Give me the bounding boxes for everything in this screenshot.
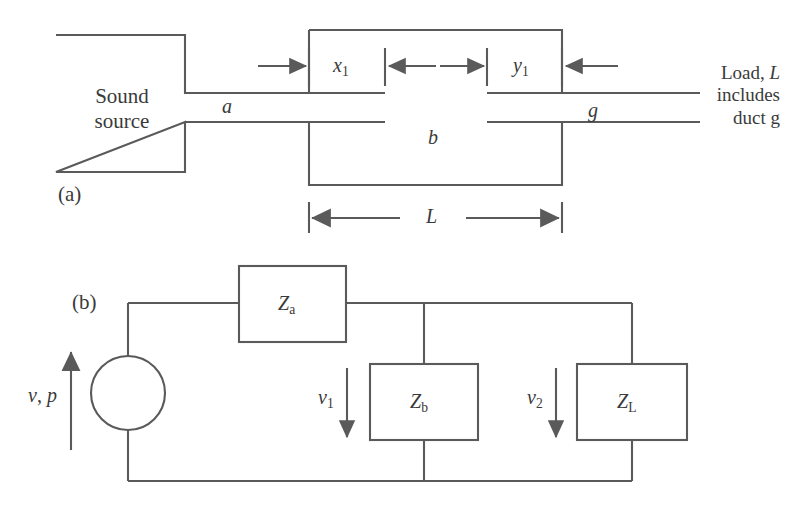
zl-base: Z — [617, 390, 628, 412]
load-note-line2: includes — [600, 84, 780, 106]
sound-source-line1: Sound — [74, 84, 170, 109]
v1-sub: 1 — [327, 396, 334, 411]
load-note-line1: Load, L — [600, 62, 780, 84]
dim-x1-base: x — [333, 54, 342, 76]
zb-base: Z — [410, 390, 421, 412]
v1-label: v1 — [318, 386, 334, 410]
sound-source-label: Sound source — [74, 84, 170, 134]
za-base: Z — [278, 292, 289, 314]
dim-y1-sub: 1 — [522, 64, 529, 79]
panel-label-b: (b) — [72, 290, 97, 315]
dim-y1-label: y1 — [513, 54, 529, 78]
source-symbol — [91, 356, 165, 430]
vp-label-comma: , — [37, 384, 47, 406]
v2-sub: 2 — [536, 396, 543, 411]
zb-label: Zb — [410, 390, 428, 414]
duct-g-label: g — [588, 99, 598, 123]
dim-y1-base: y — [513, 54, 522, 76]
za-sub: a — [289, 302, 295, 317]
v1-base: v — [318, 386, 327, 408]
za-label: Za — [278, 292, 295, 316]
sound-source-line2: source — [74, 109, 170, 134]
load-note-symbol: L — [769, 62, 780, 83]
vp-label: v, p — [28, 384, 57, 408]
figure-canvas: Sound source a g b x1 y1 L Load, L inclu… — [0, 0, 786, 508]
dim-length-label: L — [426, 205, 437, 229]
vp-label-p: p — [47, 384, 57, 406]
vp-label-v: v — [28, 384, 37, 406]
v2-label: v2 — [527, 386, 543, 410]
load-note-prefix: Load, — [721, 62, 770, 83]
dim-x1-label: x1 — [333, 54, 349, 78]
chamber-b-label: b — [428, 126, 438, 150]
zl-label: ZL — [617, 390, 636, 414]
load-note: Load, L includes duct g — [600, 62, 780, 129]
v2-base: v — [527, 386, 536, 408]
dim-x1-sub: 1 — [342, 64, 349, 79]
duct-a-label: a — [222, 95, 232, 119]
zb-sub: b — [421, 400, 428, 415]
panel-label-a: (a) — [58, 182, 81, 207]
zl-sub: L — [628, 400, 636, 415]
load-note-line3: duct g — [600, 107, 780, 129]
